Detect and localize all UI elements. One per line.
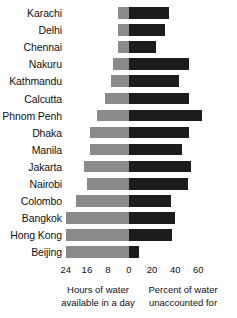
city-label: Nairobi [29,177,62,191]
city-label: Chennai [24,40,62,54]
bar-hours-available [118,24,129,36]
bar-percent-unaccounted [129,58,189,70]
right-axis-caption: Percent of water unaccounted for [140,284,226,309]
bar-percent-unaccounted [129,161,191,173]
bar-hours-available [87,178,129,190]
chart-row: Calcutta [0,92,237,109]
chart-axis-captions: Hours of water available in a day Percen… [0,284,237,318]
chart-row: Beijing [0,245,237,262]
chart-row: Jakarta [0,160,237,177]
bar-hours-available [90,127,129,139]
city-label: Delhi [39,23,62,37]
chart-plot-area: KarachiDelhiChennaiNakuruKathmanduCalcut… [0,0,237,262]
chart-row: Kathmandu [0,74,237,91]
right-axis-caption-line2: unaccounted for [140,297,226,310]
axis-tick-label: 20 [147,264,158,276]
bar-percent-unaccounted [129,246,139,258]
city-label: Calcutta [24,92,62,106]
bar-hours-available [66,229,129,241]
chart-row: Manila [0,143,237,160]
axis-tick-label: 24 [61,264,72,276]
bar-percent-unaccounted [129,195,171,207]
bar-hours-available [66,246,129,258]
chart-row: Hong Kong [0,228,237,245]
water-supply-diverging-bar-chart: KarachiDelhiChennaiNakuruKathmanduCalcut… [0,0,237,318]
bar-hours-available [118,41,129,53]
axis-tick-label: 8 [105,264,110,276]
bar-hours-available [113,58,129,70]
chart-x-axis: 241680204060 [0,264,237,280]
bar-hours-available [84,161,129,173]
city-label: Beijing [31,245,62,259]
city-label: Bangkok [22,211,62,225]
city-label: Dhaka [32,126,62,140]
bar-hours-available [66,212,129,224]
bar-hours-available [76,195,129,207]
city-label: Manila [32,143,62,157]
bar-percent-unaccounted [129,7,169,19]
bar-percent-unaccounted [129,127,189,139]
bar-hours-available [90,144,129,156]
city-label: Hong Kong [10,228,62,242]
left-axis-caption: Hours of water available in a day [58,284,138,309]
city-label: Kathmandu [9,74,62,88]
left-axis-caption-line2: available in a day [58,297,138,310]
left-axis-caption-line1: Hours of water [58,284,138,297]
chart-row: Delhi [0,23,237,40]
bar-percent-unaccounted [129,41,156,53]
chart-row: Nairobi [0,177,237,194]
city-label: Phnom Penh [2,109,62,123]
bar-percent-unaccounted [129,229,172,241]
axis-tick-label: 60 [193,264,204,276]
axis-tick-label: 40 [170,264,181,276]
bar-percent-unaccounted [129,75,179,87]
bar-percent-unaccounted [129,110,202,122]
bar-hours-available [118,7,129,19]
chart-row: Dhaka [0,126,237,143]
bar-percent-unaccounted [129,93,189,105]
right-axis-caption-line1: Percent of water [140,284,226,297]
chart-row: Nakuru [0,57,237,74]
city-label: Jakarta [28,160,62,174]
chart-row: Phnom Penh [0,109,237,126]
bar-percent-unaccounted [129,178,188,190]
bar-percent-unaccounted [129,24,165,36]
bar-hours-available [105,93,129,105]
bar-hours-available [97,110,129,122]
city-label: Colombo [21,194,62,208]
city-label: Karachi [27,6,62,20]
axis-tick-label: 16 [82,264,93,276]
bar-percent-unaccounted [129,212,175,224]
city-label: Nakuru [29,57,62,71]
chart-row: Colombo [0,194,237,211]
axis-tick-label: 0 [126,264,131,276]
bar-hours-available [111,75,129,87]
chart-row: Bangkok [0,211,237,228]
bar-percent-unaccounted [129,144,182,156]
chart-row: Karachi [0,6,237,23]
chart-row: Chennai [0,40,237,57]
